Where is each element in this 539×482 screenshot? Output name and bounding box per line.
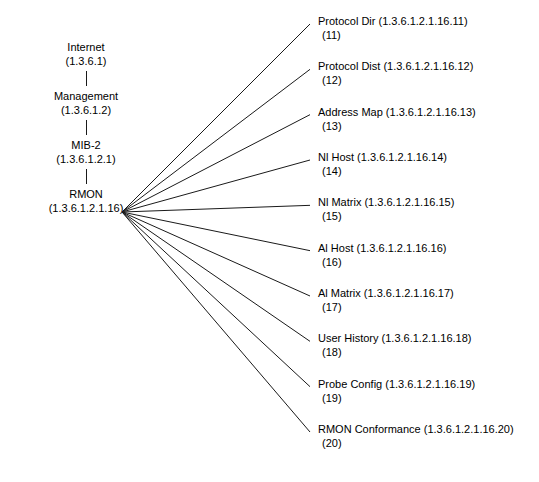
leaf-label: Al Matrix (1.3.6.1.2.1.16.17) (17) — [318, 286, 454, 314]
rmon-branch-edge — [122, 212, 310, 387]
leaf-label: User History (1.3.6.1.2.1.16.18) (18) — [318, 331, 471, 359]
leaf-title: Probe Config (1.3.6.1.2.1.16.19) — [318, 377, 475, 391]
chain-node-rmon-oid: (1.3.6.1.2.1.16) — [0, 201, 172, 215]
leaf-label: RMON Conformance (1.3.6.1.2.1.16.20) (20… — [318, 422, 514, 450]
leaf-index: (17) — [318, 300, 454, 314]
chain-node-management: Management (1.3.6.1.2) — [0, 89, 172, 117]
mib-ancestor-chain: Internet (1.3.6.1) Management (1.3.6.1.2… — [0, 40, 172, 215]
leaf-title: Al Matrix (1.3.6.1.2.1.16.17) — [318, 286, 454, 300]
leaf-index: (11) — [318, 28, 468, 42]
leaf-index: (16) — [318, 255, 446, 269]
chain-connector-2 — [86, 120, 87, 135]
chain-connector-1 — [86, 71, 87, 86]
leaf-title: Nl Matrix (1.3.6.1.2.1.16.15) — [318, 195, 454, 209]
chain-node-mib2-name: MIB-2 — [0, 138, 172, 152]
leaf-title: Al Host (1.3.6.1.2.1.16.16) — [318, 241, 446, 255]
leaf-index: (20) — [318, 436, 514, 450]
rmon-branch-edge — [122, 212, 310, 432]
chain-node-internet: Internet (1.3.6.1) — [0, 40, 172, 68]
leaf-index: (14) — [318, 164, 447, 178]
leaf-index: (12) — [318, 73, 473, 87]
leaf-title: User History (1.3.6.1.2.1.16.18) — [318, 331, 471, 345]
rmon-branch-edge — [122, 212, 310, 251]
leaf-label: Probe Config (1.3.6.1.2.1.16.19) (19) — [318, 377, 475, 405]
leaf-label: Protocol Dist (1.3.6.1.2.1.16.12) (12) — [318, 59, 473, 87]
chain-node-management-oid: (1.3.6.1.2) — [0, 103, 172, 117]
chain-node-rmon-name: RMON — [0, 187, 172, 201]
rmon-branch-edge — [122, 212, 310, 341]
leaf-title: RMON Conformance (1.3.6.1.2.1.16.20) — [318, 422, 514, 436]
leaf-label: Protocol Dir (1.3.6.1.2.1.16.11) (11) — [318, 14, 468, 42]
rmon-mib-tree-diagram: Internet (1.3.6.1) Management (1.3.6.1.2… — [0, 0, 539, 482]
chain-node-rmon: RMON (1.3.6.1.2.1.16) — [0, 187, 172, 215]
leaf-index: (13) — [318, 119, 476, 133]
leaf-label: Al Host (1.3.6.1.2.1.16.16) (16) — [318, 241, 446, 269]
leaf-index: (15) — [318, 209, 454, 223]
leaf-label: Address Map (1.3.6.1.2.1.16.13) (13) — [318, 105, 476, 133]
leaf-index: (19) — [318, 391, 475, 405]
leaf-label: Nl Matrix (1.3.6.1.2.1.16.15) (15) — [318, 195, 454, 223]
chain-node-internet-oid: (1.3.6.1) — [0, 54, 172, 68]
leaf-label: Nl Host (1.3.6.1.2.1.16.14) (14) — [318, 150, 447, 178]
leaf-title: Protocol Dir (1.3.6.1.2.1.16.11) — [318, 14, 468, 28]
leaf-title: Protocol Dist (1.3.6.1.2.1.16.12) — [318, 59, 473, 73]
chain-connector-3 — [86, 169, 87, 184]
rmon-branch-edge — [122, 212, 310, 296]
leaf-title: Address Map (1.3.6.1.2.1.16.13) — [318, 105, 476, 119]
chain-node-management-name: Management — [0, 89, 172, 103]
leaf-title: Nl Host (1.3.6.1.2.1.16.14) — [318, 150, 447, 164]
chain-node-mib2: MIB-2 (1.3.6.1.2.1) — [0, 138, 172, 166]
leaf-index: (18) — [318, 345, 471, 359]
chain-node-mib2-oid: (1.3.6.1.2.1) — [0, 152, 172, 166]
chain-node-internet-name: Internet — [0, 40, 172, 54]
